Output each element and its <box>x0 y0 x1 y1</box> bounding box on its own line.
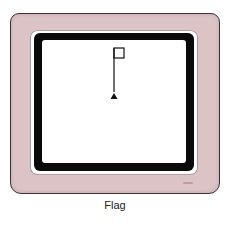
figure-caption: Flag <box>0 199 230 211</box>
flag-banner <box>114 48 124 58</box>
turtle-canvas <box>42 40 186 163</box>
turtle-triangle-icon <box>111 93 118 99</box>
brand-badge <box>183 182 193 184</box>
monitor-screen <box>42 40 186 163</box>
